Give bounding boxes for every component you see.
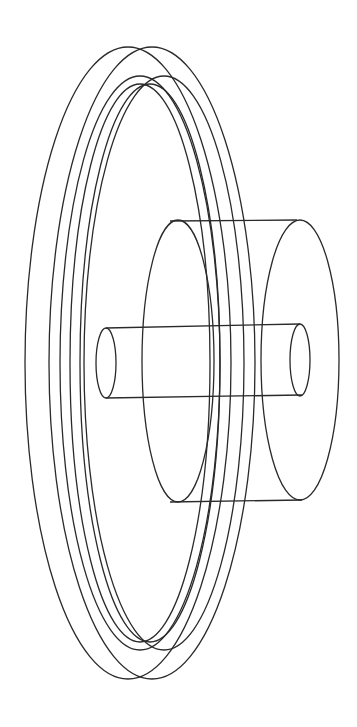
pulley-diagram [0,0,357,727]
shaft-cylinder [96,324,310,398]
pulley-wireframe [0,0,357,727]
pulley-groove [70,84,220,642]
